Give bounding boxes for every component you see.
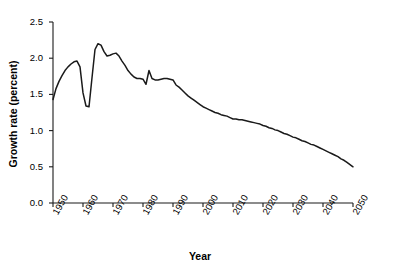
y-tick-label: 2.5 [19,16,43,27]
plot-area [0,0,402,271]
y-tick-label: 1.5 [19,88,43,99]
axes [53,22,353,203]
y-tick-label: 0.0 [19,197,43,208]
y-tick-label: 2.0 [19,52,43,63]
y-tick-label: 1.0 [19,125,43,136]
x-axis-title: Year [175,250,225,262]
y-axis-title: Growth rate (percent) [7,54,19,174]
growth-rate-line [53,44,353,167]
y-tick-marks [49,22,53,203]
y-tick-label: 0.5 [19,161,43,172]
growth-rate-chart: 0.00.51.01.52.02.5 195019601970198019902… [0,0,402,271]
